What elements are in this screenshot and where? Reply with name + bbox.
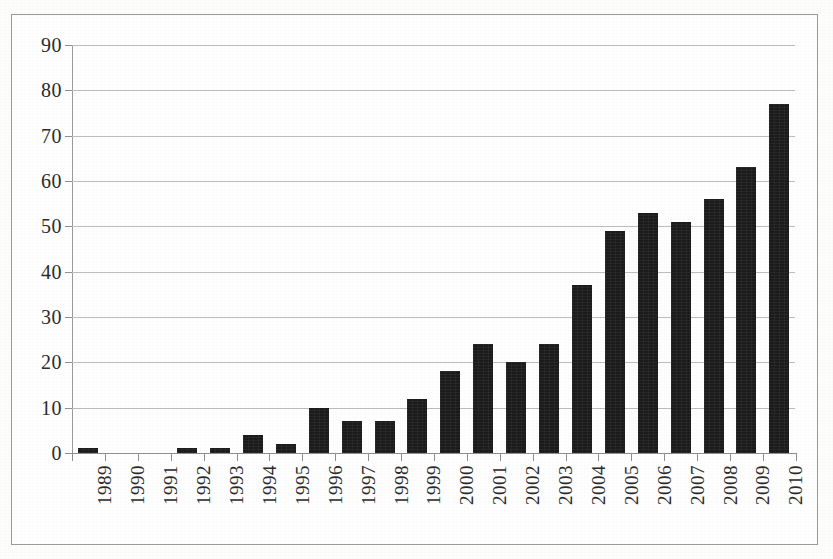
y-axis-tick [65, 90, 72, 91]
x-axis-tick-label: 1998 [392, 465, 411, 505]
y-axis-tick [65, 317, 72, 318]
bar [473, 344, 493, 453]
x-axis-tick-label: 1991 [161, 465, 180, 505]
x-axis-tick-label: 2001 [490, 465, 509, 505]
x-axis-tick [566, 453, 567, 461]
x-axis-tick [697, 453, 698, 461]
gridline [72, 136, 795, 137]
y-axis-tick [65, 136, 72, 137]
y-axis-tick [65, 408, 72, 409]
x-axis-tick [664, 453, 665, 461]
y-axis-tick [65, 181, 72, 182]
x-axis-tick-label: 1996 [326, 465, 345, 505]
x-axis-tick [138, 453, 139, 461]
x-axis-tick [467, 453, 468, 461]
x-axis-tick [796, 453, 797, 461]
y-axis-tick-label: 70 [41, 126, 62, 146]
bar [605, 231, 625, 453]
x-axis-tick-label: 2010 [786, 465, 805, 505]
x-axis-tick [72, 453, 73, 461]
x-axis-tick [598, 453, 599, 461]
bar [638, 213, 658, 453]
y-axis-tick [65, 226, 72, 227]
x-axis-tick [533, 453, 534, 461]
x-axis-tick-label: 1992 [194, 465, 213, 505]
bar [276, 444, 296, 453]
y-axis-tick-label: 60 [41, 171, 62, 191]
x-axis-tick-label: 1990 [128, 465, 147, 505]
bar [769, 104, 789, 453]
x-axis-tick-label: 2003 [556, 465, 575, 505]
x-axis-tick-label: 1995 [293, 465, 312, 505]
bar [671, 222, 691, 453]
x-axis-tick [631, 453, 632, 461]
x-axis-tick [171, 453, 172, 461]
chart-figure: 0102030405060708090 19891990199119921993… [0, 0, 833, 559]
x-axis-tick-label: 2005 [622, 465, 641, 505]
x-axis-tick-label: 2009 [753, 465, 772, 505]
bar [704, 199, 724, 453]
gridline [72, 90, 795, 91]
x-axis-tick [500, 453, 501, 461]
x-axis-tick [335, 453, 336, 461]
x-axis-tick [302, 453, 303, 461]
y-axis-tick-label: 80 [41, 80, 62, 100]
y-axis-tick [65, 272, 72, 273]
y-axis-labels: 0102030405060708090 [0, 0, 62, 559]
y-axis-tick [65, 453, 72, 454]
bar [407, 399, 427, 453]
bar [506, 362, 526, 453]
x-axis-tick [204, 453, 205, 461]
x-axis-tick-label: 2000 [457, 465, 476, 505]
x-axis-tick [105, 453, 106, 461]
y-axis-tick-label: 0 [52, 443, 63, 463]
y-axis-tick-label: 40 [41, 262, 62, 282]
x-axis-tick [368, 453, 369, 461]
x-axis-tick [730, 453, 731, 461]
x-axis-tick-label: 1999 [424, 465, 443, 505]
plot-area [72, 45, 795, 453]
y-axis-tick [65, 362, 72, 363]
bar [736, 167, 756, 453]
bar [342, 421, 362, 453]
y-axis-tick-label: 50 [41, 216, 62, 236]
x-axis-tick-label: 1997 [359, 465, 378, 505]
gridline [72, 45, 795, 46]
x-axis-tick-label: 1994 [260, 465, 279, 505]
x-axis-tick [269, 453, 270, 461]
x-axis-tick [763, 453, 764, 461]
bar [309, 408, 329, 453]
x-axis-tick-label: 1993 [227, 465, 246, 505]
y-axis-tick-label: 10 [41, 398, 62, 418]
y-axis-tick-label: 20 [41, 352, 62, 372]
x-axis-tick-label: 2008 [721, 465, 740, 505]
y-axis-tick [65, 45, 72, 46]
x-axis-tick-label: 2007 [688, 465, 707, 505]
y-axis-tick-label: 90 [41, 35, 62, 55]
bar [243, 435, 263, 453]
x-axis-tick [401, 453, 402, 461]
bar [572, 285, 592, 453]
x-axis-tick-label: 1989 [95, 465, 114, 505]
bar [440, 371, 460, 453]
x-axis-tick [237, 453, 238, 461]
gridline [72, 181, 795, 182]
x-axis-tick-label: 2006 [655, 465, 674, 505]
x-axis-tick-label: 2004 [589, 465, 608, 505]
x-axis-tick [434, 453, 435, 461]
x-axis-tick-label: 2002 [523, 465, 542, 505]
y-axis-tick-label: 30 [41, 307, 62, 327]
bar [375, 421, 395, 453]
bar [539, 344, 559, 453]
